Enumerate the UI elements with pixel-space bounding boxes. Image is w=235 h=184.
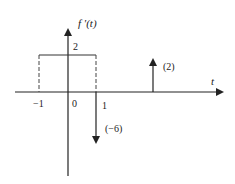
impulse-2-label: (2) [163,61,175,73]
signal-diagram: f '(t) t 2 −1 0 1 (−6) (2) [0,0,235,184]
tick-label-1: 1 [102,100,107,111]
tick-label-neg1: −1 [33,98,44,109]
impulse-neg6-label: (−6) [105,123,122,135]
y-axis-label: f '(t) [78,17,97,30]
tick-label-0: 0 [72,98,77,109]
x-axis-label: t [211,75,215,87]
pulse-height-label: 2 [73,41,78,52]
